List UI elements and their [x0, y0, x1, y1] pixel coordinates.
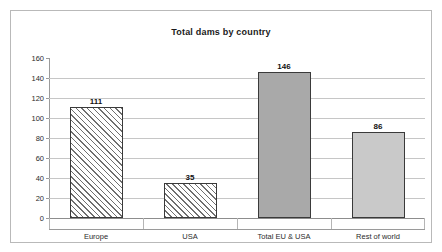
value-tick-mark	[46, 178, 49, 179]
bar: 111	[70, 107, 123, 218]
bar-value-label: 111	[90, 97, 102, 106]
chart-title: Total dams by country	[11, 27, 431, 37]
chart-frame: Total dams by country 020406080100120140…	[10, 10, 432, 243]
value-tick-label: 60	[36, 154, 44, 163]
value-tick-label: 20	[36, 194, 44, 203]
value-tick-label: 100	[31, 114, 44, 123]
gridline	[49, 78, 425, 79]
category-tick-mark	[237, 218, 238, 229]
category-tick-mark	[424, 218, 425, 229]
value-tick-label: 80	[36, 134, 44, 143]
bar-value-label: 146	[277, 62, 290, 71]
bar-value-label: 35	[186, 173, 195, 182]
plot-area: 020406080100120140160 1113514686	[49, 58, 425, 218]
value-tick-mark	[46, 138, 49, 139]
value-tick-mark	[46, 78, 49, 79]
category-tick-mark	[49, 218, 50, 229]
category-tick-mark	[331, 218, 332, 229]
value-tick-mark	[46, 118, 49, 119]
value-tick-label: 0	[40, 214, 44, 223]
category-label: Rest of world	[356, 232, 400, 241]
bar: 86	[352, 132, 405, 218]
bar: 35	[164, 183, 217, 218]
value-tick-label: 120	[31, 94, 44, 103]
category-axis-line	[49, 229, 425, 230]
category-tick-mark	[143, 218, 144, 229]
category-label: Europe	[84, 232, 108, 241]
value-tick-label: 140	[31, 74, 44, 83]
category-axis: EuropeUSATotal EU & USARest of world	[49, 218, 425, 244]
value-tick-mark	[46, 158, 49, 159]
value-tick-mark	[46, 198, 49, 199]
category-label: Total EU & USA	[258, 232, 311, 241]
category-label: USA	[182, 232, 197, 241]
gridline	[49, 98, 425, 99]
value-tick-mark	[46, 98, 49, 99]
bar-value-label: 86	[374, 122, 383, 131]
bar: 146	[258, 72, 311, 218]
value-tick-label: 40	[36, 174, 44, 183]
value-tick-mark	[46, 58, 49, 59]
value-tick-label: 160	[31, 54, 44, 63]
